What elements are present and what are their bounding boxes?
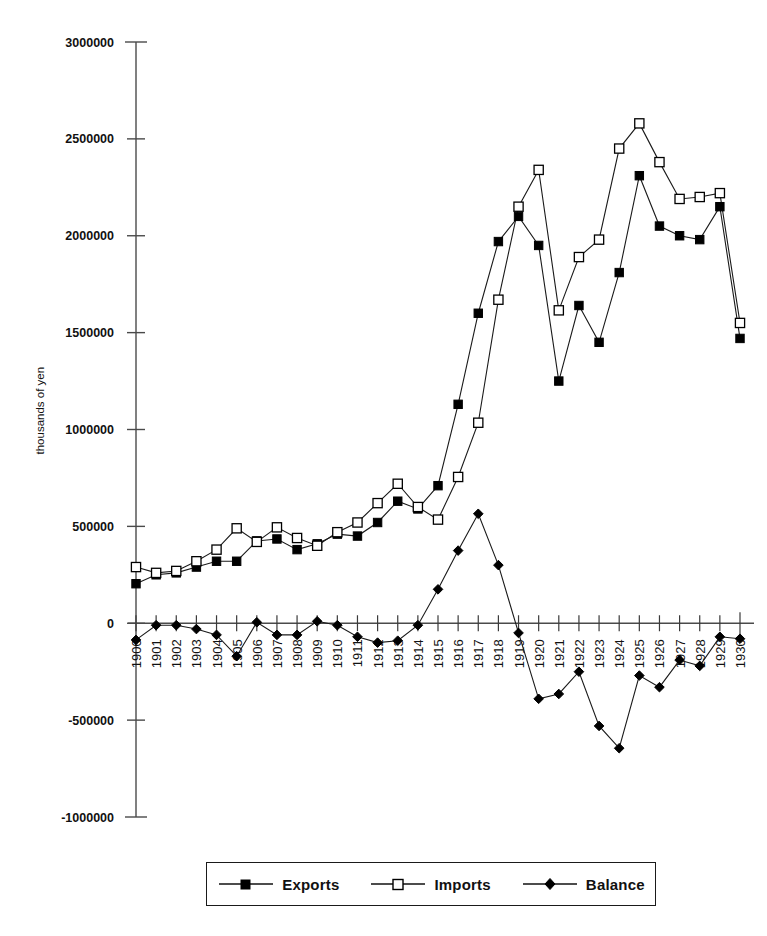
data-point-balance xyxy=(413,620,423,630)
y-axis-title: thousands of yen xyxy=(34,367,46,455)
x-tick-label: 1919 xyxy=(512,639,527,668)
data-point-exports xyxy=(635,171,643,179)
data-point-imports xyxy=(695,192,704,201)
x-tick-label: 1902 xyxy=(169,639,184,668)
data-point-exports xyxy=(655,222,663,230)
data-point-exports xyxy=(696,235,704,243)
data-point-imports xyxy=(393,479,402,488)
data-point-imports xyxy=(172,566,181,575)
x-tick-label: 1922 xyxy=(572,639,587,668)
data-point-imports xyxy=(534,165,543,174)
data-point-exports xyxy=(273,535,281,543)
data-point-imports xyxy=(131,562,140,571)
y-tick-label: 2500000 xyxy=(65,132,114,146)
data-point-balance xyxy=(333,620,343,630)
x-tick-label: 1903 xyxy=(189,639,204,668)
legend-item-balance[interactable]: Balance xyxy=(521,876,645,893)
data-point-exports xyxy=(474,309,482,317)
x-tick-label: 1901 xyxy=(149,639,164,668)
y-tick-label: 1500000 xyxy=(65,326,114,340)
x-tick-label: 1925 xyxy=(632,639,647,668)
x-tick-label: 1920 xyxy=(532,639,547,668)
data-point-imports xyxy=(615,144,624,153)
data-point-imports xyxy=(675,194,684,203)
data-point-exports xyxy=(615,268,623,276)
chart-page: 3000000250000020000001500000100000050000… xyxy=(0,0,767,936)
data-point-imports xyxy=(635,119,644,128)
data-point-imports xyxy=(313,541,322,550)
legend-item-imports[interactable]: Imports xyxy=(369,876,490,893)
x-tick-label: 1918 xyxy=(491,639,506,668)
x-tick-label: 1907 xyxy=(270,639,285,668)
data-point-imports xyxy=(272,523,281,532)
data-point-balance xyxy=(272,630,282,640)
data-point-balance xyxy=(494,560,504,570)
x-tick-label: 1906 xyxy=(250,639,265,668)
y-tick-label: 500000 xyxy=(72,520,114,534)
x-tick-label: 1917 xyxy=(471,639,486,668)
legend-label-balance: Balance xyxy=(586,876,645,893)
y-tick-label: 1000000 xyxy=(65,423,114,437)
x-tick-label: 1921 xyxy=(552,639,567,668)
data-point-imports xyxy=(192,557,201,566)
y-tick-label: 2000000 xyxy=(65,229,114,243)
x-tick-label: 1914 xyxy=(411,639,426,668)
data-point-balance xyxy=(514,628,524,638)
data-point-imports xyxy=(353,518,362,527)
data-point-imports xyxy=(252,537,261,546)
data-point-balance xyxy=(453,546,463,556)
x-tick-label: 1910 xyxy=(330,639,345,668)
x-tick-label: 1923 xyxy=(592,639,607,668)
data-point-imports xyxy=(413,502,422,511)
chart-legend: Exports Imports Balance xyxy=(206,862,656,906)
legend-label-imports: Imports xyxy=(434,876,490,893)
data-point-exports xyxy=(454,400,462,408)
x-tick-label: 1916 xyxy=(451,639,466,668)
data-point-balance xyxy=(433,585,443,595)
y-tick-label: -1000000 xyxy=(61,811,114,825)
data-point-exports xyxy=(212,557,220,565)
x-tick-label: 1904 xyxy=(210,639,225,668)
legend-marker-balance xyxy=(521,877,579,891)
data-point-balance xyxy=(473,509,483,519)
data-point-exports xyxy=(434,481,442,489)
data-point-exports xyxy=(373,518,381,526)
y-axis-title-text: thousands of yen xyxy=(34,367,46,455)
data-point-imports xyxy=(433,515,442,524)
data-point-exports xyxy=(675,232,683,240)
data-point-imports xyxy=(554,306,563,315)
data-point-balance xyxy=(312,617,322,627)
data-point-balance xyxy=(151,620,161,630)
data-point-imports xyxy=(715,189,724,198)
data-point-imports xyxy=(735,318,744,327)
data-point-balance xyxy=(192,624,202,634)
x-tick-label: 1911 xyxy=(350,639,365,667)
x-tick-label: 1915 xyxy=(431,639,446,668)
data-point-imports xyxy=(594,235,603,244)
y-tick-label: 3000000 xyxy=(65,36,114,50)
data-point-imports xyxy=(474,418,483,427)
data-point-imports xyxy=(212,545,221,554)
data-point-exports xyxy=(534,241,542,249)
data-point-exports xyxy=(514,212,522,220)
legend-label-exports: Exports xyxy=(282,876,339,893)
data-point-balance xyxy=(635,671,645,681)
series-line-imports xyxy=(136,123,740,573)
data-point-exports xyxy=(736,334,744,342)
legend-marker-exports xyxy=(217,877,275,891)
data-point-imports xyxy=(232,524,241,533)
y-axis: 3000000250000020000001500000100000050000… xyxy=(61,36,147,825)
data-point-exports xyxy=(394,497,402,505)
data-point-exports xyxy=(575,301,583,309)
data-point-imports xyxy=(514,202,523,211)
data-point-imports xyxy=(574,252,583,261)
data-point-exports xyxy=(132,580,140,588)
data-point-imports xyxy=(454,472,463,481)
data-point-imports xyxy=(655,158,664,167)
data-point-balance xyxy=(171,620,181,630)
y-tick-label: -500000 xyxy=(68,714,114,728)
x-tick-label: 1924 xyxy=(612,639,627,668)
data-point-imports xyxy=(333,528,342,537)
legend-item-exports[interactable]: Exports xyxy=(217,876,339,893)
data-point-balance xyxy=(655,682,665,692)
